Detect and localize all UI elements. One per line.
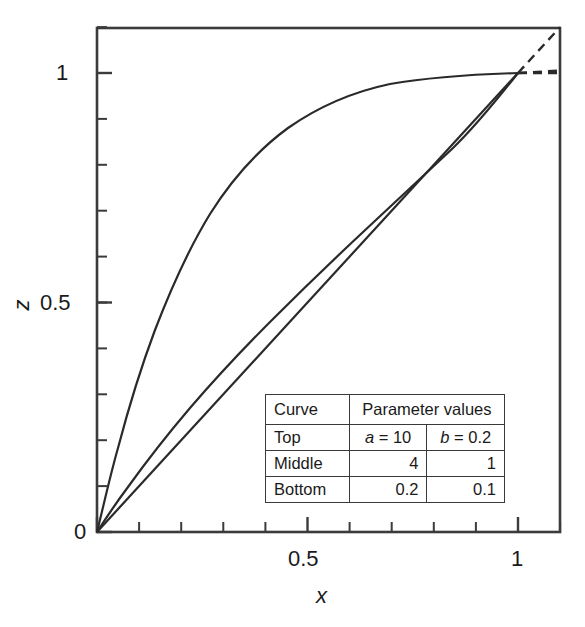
x-tick-label-1: 1 bbox=[511, 546, 523, 572]
x-axis-ticks bbox=[97, 517, 560, 532]
y-axis-ticks bbox=[97, 27, 112, 532]
legend-row-0-b: b = 0.2 bbox=[427, 425, 505, 451]
x-axis-title: x bbox=[316, 583, 327, 609]
plot-canvas bbox=[0, 0, 585, 627]
parameter-legend-table: Curve Parameter values Top a = 10 b = 0.… bbox=[265, 394, 505, 503]
legend-row-2-a: 0.2 bbox=[349, 477, 427, 503]
table-row: Bottom 0.2 0.1 bbox=[266, 477, 505, 503]
y-axis-title: z bbox=[9, 300, 35, 311]
legend-row-1-curve: Middle bbox=[266, 451, 350, 477]
table-row: Top a = 10 b = 0.2 bbox=[266, 425, 505, 451]
y-tick-label-0: 0 bbox=[74, 519, 86, 545]
legend-header-parameters: Parameter values bbox=[349, 395, 504, 425]
legend-header-curve: Curve bbox=[266, 395, 350, 425]
figure-container: 1 0.5 0 0.5 1 z x Curve Parameter values… bbox=[0, 0, 585, 627]
legend-row-1-b: 1 bbox=[427, 451, 505, 477]
table-row: Middle 4 1 bbox=[266, 451, 505, 477]
y-tick-label-0point5: 0.5 bbox=[40, 290, 71, 316]
legend-row-2-curve: Bottom bbox=[266, 477, 350, 503]
legend-row-0-a: a = 10 bbox=[349, 425, 427, 451]
legend-row-1-a: 4 bbox=[349, 451, 427, 477]
legend-header-row: Curve Parameter values bbox=[266, 395, 505, 425]
y-tick-label-1: 1 bbox=[56, 60, 68, 86]
x-tick-label-0point5: 0.5 bbox=[288, 546, 319, 572]
legend-row-0-curve: Top bbox=[266, 425, 350, 451]
legend-row-2-b: 0.1 bbox=[427, 477, 505, 503]
